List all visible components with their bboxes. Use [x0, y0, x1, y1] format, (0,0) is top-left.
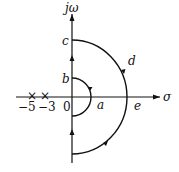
- pole-label-5: −5: [18, 100, 36, 114]
- pole-label-3: −3: [38, 100, 56, 114]
- arrow-up-lower: [70, 129, 75, 135]
- point-d-label: d: [128, 54, 136, 68]
- arrow-a: [88, 87, 93, 91]
- jw-label: jω: [62, 1, 79, 15]
- origin-label: 0: [63, 100, 71, 114]
- point-a-label: a: [97, 98, 104, 112]
- nyquist-diagram: × × jω σ c b d a e 0 −5 −3: [0, 0, 179, 172]
- point-b-label: b: [62, 72, 70, 86]
- sigma-label: σ: [163, 90, 172, 104]
- point-c-label: c: [62, 34, 69, 48]
- arrow-up-upper: [70, 55, 75, 61]
- point-e-label: e: [134, 99, 141, 113]
